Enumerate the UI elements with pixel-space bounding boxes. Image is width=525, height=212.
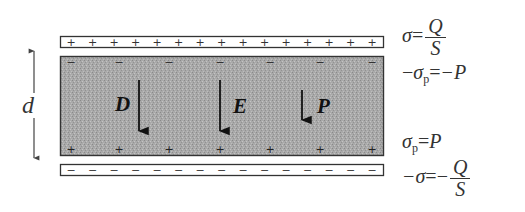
charge-symbol: +	[303, 36, 312, 49]
charge-symbol: −	[238, 164, 247, 177]
charge-symbol: +	[66, 143, 75, 156]
fraction: QS	[425, 16, 445, 59]
charge-symbol: −	[260, 164, 269, 177]
charge-symbol: −	[215, 56, 224, 69]
charge-symbol: −	[66, 164, 75, 177]
positive-charges: +++++++++++++++	[66, 36, 376, 49]
charge-symbol: +	[195, 36, 204, 49]
charge-symbol: −	[88, 164, 97, 177]
charge-symbol: −	[152, 164, 161, 177]
charge-symbol: +	[152, 36, 161, 49]
charge-symbol: +	[215, 143, 224, 156]
charge-symbol: −	[174, 164, 183, 177]
charge-symbol: +	[217, 36, 226, 49]
charge-symbol: +	[131, 36, 140, 49]
dielectric-slab: −−−−−−− +++++++	[61, 56, 384, 156]
charge-symbol: +	[238, 36, 247, 49]
charge-symbol: +	[265, 143, 274, 156]
charge-symbol: +	[66, 36, 75, 49]
charge-symbol: −	[66, 56, 75, 69]
charge-symbol: +	[367, 36, 376, 49]
charge-symbol: −	[114, 56, 123, 69]
top-plate-charge-density: σ=QS	[402, 16, 446, 59]
bottom-plate: −−−−−−−−−−−−−−−	[61, 164, 384, 177]
charge-symbol: +	[88, 36, 97, 49]
bottom-plate-charge-density: −σ=−QS	[402, 157, 470, 200]
separation-label: d	[22, 92, 34, 119]
charge-symbol: +	[281, 36, 290, 49]
charge-symbol: −	[281, 164, 290, 177]
dielectric-top-bound-charge: −σp=−P	[402, 62, 466, 85]
charge-symbol: +	[260, 36, 269, 49]
p-vector-label: P	[317, 94, 330, 119]
charge-symbol: −	[195, 164, 204, 177]
charge-symbol: −	[367, 164, 376, 177]
charge-symbol: −	[315, 56, 324, 69]
charge-symbol: +	[114, 143, 123, 156]
charge-symbol: −	[367, 56, 376, 69]
charge-symbol: −	[164, 56, 173, 69]
charge-symbol: +	[324, 36, 333, 49]
charge-symbol: +	[174, 36, 183, 49]
d-vector-label: D	[115, 92, 130, 117]
charge-symbol: +	[164, 143, 173, 156]
charge-symbol: −	[324, 164, 333, 177]
charge-symbol: +	[109, 36, 118, 49]
charge-symbol: −	[265, 56, 274, 69]
fraction: QS	[450, 157, 470, 200]
top-plate: +++++++++++++++	[61, 36, 384, 49]
charge-symbol: −	[346, 164, 355, 177]
e-vector-label: E	[233, 94, 247, 119]
charge-symbol: −	[109, 164, 118, 177]
charge-symbol: +	[346, 36, 355, 49]
charge-symbol: +	[315, 143, 324, 156]
charge-symbol: +	[367, 143, 376, 156]
negative-charges: −−−−−−−−−−−−−−−	[66, 164, 376, 177]
charge-symbol: −	[131, 164, 140, 177]
charge-symbol: −	[217, 164, 226, 177]
dielectric-bottom-bound-charge: σp=P	[402, 131, 441, 154]
charge-symbol: −	[303, 164, 312, 177]
